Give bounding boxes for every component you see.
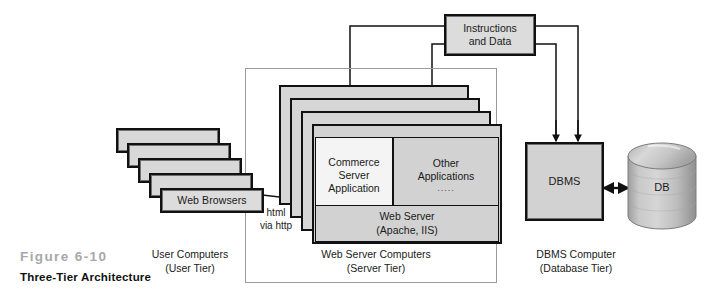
commerce-line-2: Server [339, 169, 370, 182]
caption-database-tier-name: DBMS Computer [511, 248, 641, 262]
other-applications-line-1: Other [433, 157, 459, 170]
dbms-box[interactable]: DBMS [525, 142, 604, 221]
html-label-line-2: via http [250, 219, 302, 232]
caption-server-tier-sub: (Server Tier) [306, 262, 446, 276]
caption-user-tier-name: User Computers [130, 248, 250, 262]
instructions-line-2: and Data [469, 35, 512, 48]
figure-number: Figure 6-10 [20, 249, 107, 264]
instructions-line-1: Instructions [463, 22, 517, 35]
web-browser-label: Web Browsers [162, 190, 262, 211]
html-via-http-label: html via http [250, 206, 302, 232]
db-label: DB [627, 181, 697, 193]
commerce-line-3: Application [328, 182, 379, 195]
commerce-line-1: Commerce [328, 156, 379, 169]
figure-three-tier-architecture: Web Browsers Web Browsers Web Browsers W… [0, 0, 710, 300]
web-server-line-1: Web Server [379, 210, 434, 223]
caption-server-tier-name: Web Server Computers [306, 248, 446, 262]
figure-title: Three-Tier Architecture [20, 271, 151, 283]
commerce-server-application-box[interactable]: Commerce Server Application [315, 137, 393, 214]
html-label-line-1: html [250, 206, 302, 219]
web-browser-box-front[interactable]: Web Browsers [160, 188, 264, 213]
instructions-and-data-box[interactable]: Instructions and Data [444, 14, 536, 56]
dbms-label: DBMS [527, 144, 602, 219]
web-server-box[interactable]: Web Server (Apache, IIS) [315, 205, 499, 242]
caption-database-tier-sub: (Database Tier) [511, 262, 641, 276]
other-applications-box[interactable]: Other Applications ..... [393, 137, 499, 214]
other-applications-ellipsis: ..... [437, 183, 455, 195]
other-applications-line-2: Applications [418, 170, 475, 183]
web-server-line-2: (Apache, IIS) [376, 224, 437, 237]
caption-database-tier: DBMS Computer (Database Tier) [511, 248, 641, 275]
instructions-outbound-routes [536, 26, 578, 141]
caption-server-tier: Web Server Computers (Server Tier) [306, 248, 446, 275]
